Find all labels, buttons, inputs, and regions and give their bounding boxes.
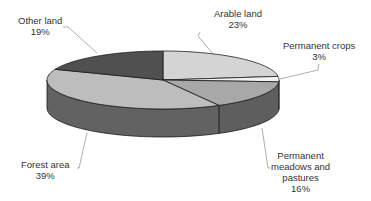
leader-line xyxy=(198,32,213,54)
pie-slices xyxy=(47,51,279,109)
slice-arable-land xyxy=(163,51,278,80)
label-other-land: Other land 19% xyxy=(18,15,62,37)
leader-line xyxy=(63,27,97,53)
leader-line xyxy=(262,128,270,168)
leader-line xyxy=(77,133,87,168)
label-forest-area: Forest area 39% xyxy=(21,159,70,181)
label-permanent-meadows: Permanent meadows and pastures 16% xyxy=(271,150,330,194)
label-arable-land: Arable land 23% xyxy=(214,8,262,30)
label-permanent-crops: Permanent crops 3% xyxy=(283,40,355,62)
leader-line xyxy=(280,64,319,79)
